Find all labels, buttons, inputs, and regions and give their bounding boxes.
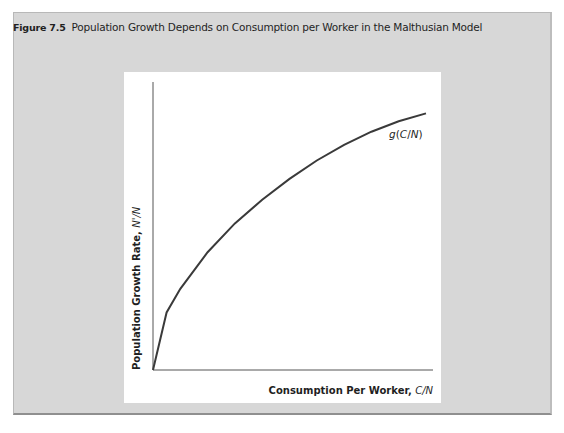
x-axis-label: Consumption Per Worker, C/N: [269, 385, 434, 396]
curve-label: g(C/N): [389, 128, 423, 140]
chart-panel: g(C/N) Consumption Per Worker, C/N Popul…: [124, 72, 441, 403]
y-axis-label: Population Growth Rate, N'/N: [131, 206, 142, 370]
g-curve: [153, 113, 426, 370]
chart-svg: g(C/N) Consumption Per Worker, C/N Popul…: [124, 72, 441, 403]
figure-number: Figure 7.5: [13, 22, 66, 33]
figure-caption: Figure 7.5Population Growth Depends on C…: [13, 21, 482, 33]
figure-title: Population Growth Depends on Consumption…: [72, 21, 483, 33]
